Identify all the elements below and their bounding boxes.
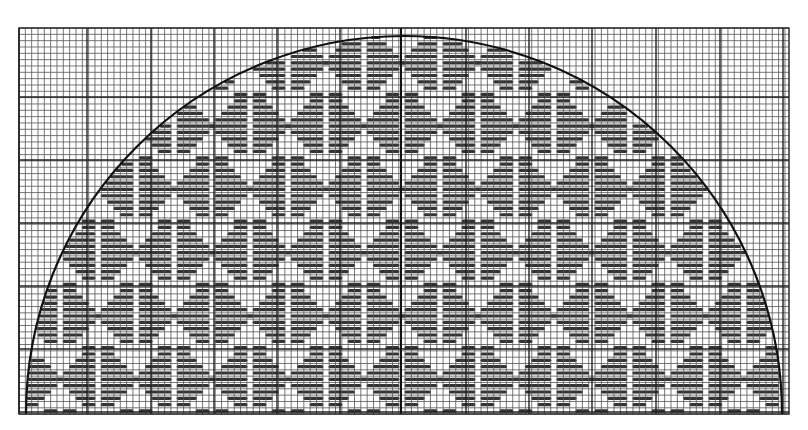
major-grid [19,28,789,414]
grid-border [19,28,789,414]
minor-grid [19,28,789,414]
needlepoint-chart [0,0,808,430]
